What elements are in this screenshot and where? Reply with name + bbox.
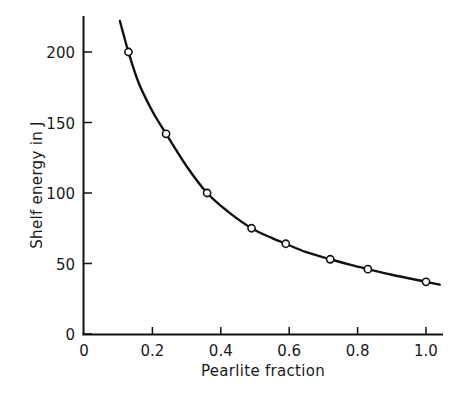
data-point-marker bbox=[327, 256, 334, 263]
fitted-curve bbox=[120, 21, 440, 285]
axes bbox=[83, 16, 444, 335]
x-tick-label: 0.8 bbox=[346, 342, 370, 360]
y-ticks: 050100150200 bbox=[46, 44, 92, 344]
y-tick-label: 0 bbox=[65, 326, 75, 344]
data-point-marker bbox=[422, 278, 429, 285]
y-tick-label: 150 bbox=[46, 115, 75, 133]
data-point-marker bbox=[204, 189, 211, 196]
y-tick-label: 200 bbox=[46, 44, 75, 62]
x-ticks: 00.20.40.60.81.0 bbox=[79, 327, 438, 360]
data-point-marker bbox=[364, 266, 371, 273]
data-point-marker bbox=[162, 130, 169, 137]
y-tick-label: 50 bbox=[56, 256, 75, 274]
x-tick-label: 1.0 bbox=[414, 342, 438, 360]
x-axis-label: Pearlite fraction bbox=[201, 362, 325, 380]
y-tick-label: 100 bbox=[46, 185, 75, 203]
x-tick-label: 0.2 bbox=[140, 342, 164, 360]
chart: 050100150200 00.20.40.60.81.0 Pearlite f… bbox=[0, 0, 467, 407]
curve-path bbox=[120, 21, 440, 285]
y-axis-label: Shelf energy in J bbox=[28, 121, 46, 248]
x-tick-label: 0.6 bbox=[277, 342, 301, 360]
x-tick-label: 0.4 bbox=[209, 342, 233, 360]
data-point-marker bbox=[125, 48, 132, 55]
data-point-marker bbox=[248, 225, 255, 232]
data-point-marker bbox=[282, 240, 289, 247]
data-points bbox=[125, 48, 430, 285]
x-tick-label: 0 bbox=[79, 342, 89, 360]
